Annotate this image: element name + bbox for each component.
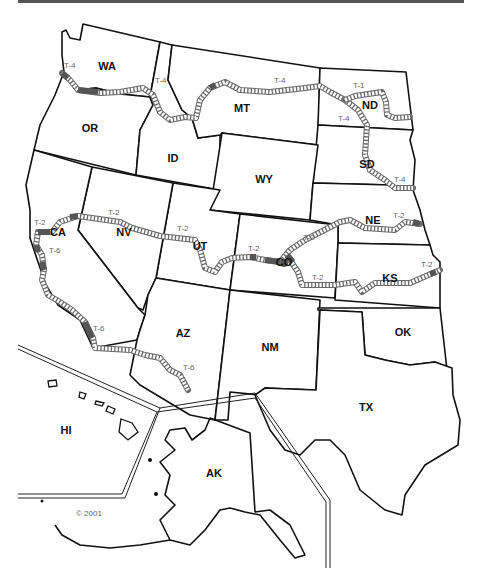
route-label-t1: T-1 bbox=[353, 81, 365, 90]
state-label: NE bbox=[365, 214, 380, 226]
route-label-t2: T-2 bbox=[421, 260, 433, 269]
route-label-t4: T-4 bbox=[394, 175, 406, 184]
route-map: WA OR ID MT ND SD WY NE NV CA UT CO KS A… bbox=[0, 0, 481, 579]
route-label-t4: T-4 bbox=[338, 114, 350, 123]
state-label: KS bbox=[382, 272, 397, 284]
state-outlines bbox=[26, 24, 460, 515]
state-label: UT bbox=[193, 240, 208, 252]
route-label-t6: T-6 bbox=[49, 246, 61, 255]
route-label-t2: T-2 bbox=[303, 233, 315, 242]
state-label: NM bbox=[261, 341, 278, 353]
copyright-text: © 2001 bbox=[76, 509, 102, 518]
route-label-t2: T-2 bbox=[393, 211, 405, 220]
route-label-t4: T-4 bbox=[64, 61, 76, 70]
state-label: ID bbox=[168, 152, 179, 164]
route-label-t4: T-4 bbox=[274, 76, 286, 85]
state-label: SD bbox=[359, 158, 374, 170]
state-label: OR bbox=[82, 122, 99, 134]
state-label: HI bbox=[61, 424, 72, 436]
route-label-t4: T-4 bbox=[155, 76, 167, 85]
alaska-outline bbox=[41, 418, 306, 558]
state-label: WA bbox=[98, 60, 116, 72]
state-label: ND bbox=[362, 99, 378, 111]
state-label: AK bbox=[206, 467, 222, 479]
state-label: CA bbox=[50, 226, 66, 238]
route-label-t2: T-2 bbox=[177, 224, 189, 233]
state-label: MT bbox=[234, 102, 250, 114]
state-label: NV bbox=[116, 226, 132, 238]
route-label-t6: T-6 bbox=[93, 324, 105, 333]
state-label: WY bbox=[255, 173, 273, 185]
state-label: AZ bbox=[176, 327, 191, 339]
route-label-t2: T-2 bbox=[312, 273, 324, 282]
state-label: TX bbox=[359, 401, 374, 413]
route-label-t6: T-6 bbox=[183, 363, 195, 372]
route-label-t2: T-2 bbox=[248, 244, 260, 253]
state-label: CO bbox=[276, 256, 293, 268]
route-label-t2: T-2 bbox=[108, 208, 120, 217]
route-label-t2: T-2 bbox=[34, 218, 46, 227]
state-label: OK bbox=[395, 326, 412, 338]
